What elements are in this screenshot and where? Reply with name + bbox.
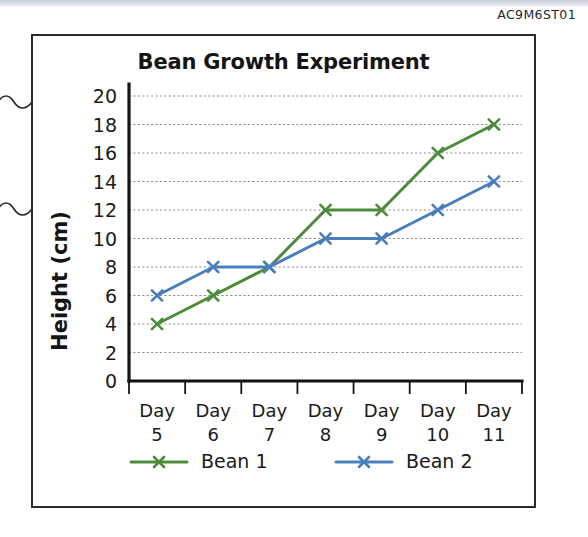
y-axis-tick-label: 0 — [105, 370, 117, 392]
data-series-group — [152, 119, 499, 329]
series-line-1 — [157, 125, 494, 325]
legend-label: Bean 2 — [406, 450, 473, 472]
y-axis-tick-label: 16 — [93, 142, 117, 164]
x-axis-tick-label: Day — [364, 400, 400, 421]
y-axis-title: Height (cm) — [48, 211, 72, 351]
legend-item-2[interactable]: Bean 2 — [336, 450, 473, 472]
y-axis-tick-label: 10 — [93, 228, 117, 250]
legend-label: Bean 1 — [201, 450, 268, 472]
chart-legend: Bean 1Bean 2 — [131, 450, 473, 472]
y-axis-tick-label: 2 — [105, 342, 117, 364]
x-axis-tick-label: Day — [476, 400, 512, 421]
y-axis-tick-labels: 02468101214161820 — [93, 85, 117, 392]
gridlines — [129, 96, 522, 353]
axis-spines — [129, 84, 522, 381]
legend-item-1[interactable]: Bean 1 — [131, 450, 268, 472]
page-tear-mark-bottom — [0, 200, 34, 218]
x-axis-tick-label: 9 — [376, 424, 387, 445]
x-axis-tick-label: Day — [139, 400, 175, 421]
x-axis-tick-label: 5 — [151, 424, 162, 445]
x-axis-tick-label: 8 — [320, 424, 331, 445]
y-axis-tick-label: 18 — [93, 114, 117, 136]
y-axis-tick-label: 8 — [105, 256, 117, 278]
page-tear-mark-top — [0, 93, 34, 111]
y-axis-tick-label: 12 — [93, 199, 117, 221]
x-axis-tick-labels: Day5Day6Day7Day8Day9Day10Day11 — [139, 400, 512, 445]
page-top-band — [0, 0, 588, 7]
x-axis-tick-label: 11 — [482, 424, 505, 445]
x-axis-tick-label: Day — [420, 400, 456, 421]
x-axis-tick-label: 6 — [207, 424, 218, 445]
x-axis-tick-label: Day — [252, 400, 288, 421]
x-axis-tick-label: 7 — [264, 424, 275, 445]
y-axis-tick-label: 6 — [105, 285, 117, 307]
line-chart: Height (cm) 02468101214161820 Day5Day6Da… — [33, 36, 534, 506]
x-axis-tick-label: Day — [195, 400, 231, 421]
y-axis-tick-label: 14 — [93, 171, 117, 193]
x-axis-tick-label: 10 — [426, 424, 449, 445]
x-axis-tick-marks — [129, 381, 522, 394]
x-axis-tick-label: Day — [308, 400, 344, 421]
y-axis-tick-label: 4 — [105, 313, 117, 335]
y-axis-tick-label: 20 — [93, 85, 117, 107]
chart-figure: Bean Growth Experiment Height (cm) 02468… — [31, 34, 536, 508]
document-code: AC9M6ST01 — [497, 7, 576, 22]
